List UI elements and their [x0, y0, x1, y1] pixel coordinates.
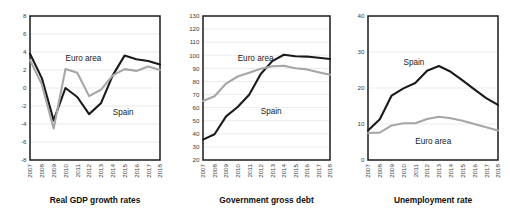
- y-axis-tick-label: 90: [193, 65, 200, 72]
- x-axis-tick-label: 2018: [494, 163, 501, 177]
- y-axis-tick-label: 6: [23, 30, 27, 37]
- y-axis-tick-label: 20: [193, 156, 200, 163]
- y-axis-tick-label: 20: [358, 84, 365, 91]
- y-axis-tick-label: -4: [21, 120, 27, 127]
- y-axis-tick-label: 2: [23, 66, 27, 73]
- y-axis-tick-label: 40: [193, 130, 200, 137]
- y-axis-tick-label: 110: [190, 38, 200, 45]
- y-axis-tick-label: -6: [21, 138, 27, 145]
- x-axis-tick-labels: 2007200820092010201120122013201420152016…: [364, 163, 501, 177]
- x-axis-tick-label: 2018: [156, 163, 163, 177]
- x-axis-tick-label: 2013: [435, 163, 442, 177]
- x-axis-tick-label: 2007: [26, 163, 33, 177]
- x-axis-tick-label: 2008: [211, 163, 218, 177]
- series-line-euro-area: [368, 117, 498, 133]
- y-gridlines: 2030405060708090100110120130: [189, 12, 330, 163]
- x-axis-tick-label: 2017: [315, 163, 322, 177]
- x-axis-tick-label: 2007: [199, 163, 206, 177]
- x-axis-tick-label: 2011: [74, 163, 81, 177]
- y-axis-tick-label: 100: [189, 52, 200, 59]
- x-axis-tick-labels: 2007200820092010201120122013201420152016…: [199, 163, 333, 177]
- x-axis-tick-label: 2014: [109, 163, 116, 177]
- x-axis-tick-label: 2018: [326, 163, 333, 177]
- x-axis-tick-label: 2016: [471, 163, 478, 177]
- y-axis-tick-label: 30: [193, 143, 200, 150]
- chart-svg: 0102030402007200820092010201120122013201…: [340, 0, 510, 212]
- x-axis-tick-label: 2009: [222, 163, 229, 177]
- panel-unemployment-rate: 0102030402007200820092010201120122013201…: [340, 0, 510, 212]
- x-axis-tick-label: 2010: [234, 163, 241, 177]
- panel-title: Government gross debt: [219, 195, 314, 205]
- x-axis-tick-label: 2009: [50, 163, 57, 177]
- panel-government-gross-debt: 2030405060708090100110120130200720082009…: [170, 0, 340, 212]
- panel-real-gdp-growth-rates: -8-6-4-202468200720082009201020112012201…: [0, 0, 170, 212]
- x-axis-tick-label: 2011: [412, 163, 419, 177]
- y-axis-tick-label: 0: [361, 156, 365, 163]
- y-axis-tick-label: 4: [23, 48, 27, 55]
- x-axis-tick-label: 2009: [388, 163, 395, 177]
- x-axis-tick-label: 2014: [447, 163, 454, 177]
- y-axis-tick-label: 80: [193, 78, 200, 85]
- series-line-spain: [368, 66, 498, 130]
- y-axis-tick-label: 70: [193, 91, 200, 98]
- x-axis-tick-label: 2015: [459, 163, 466, 177]
- x-axis-tick-label: 2013: [97, 163, 104, 177]
- x-axis-tick-label: 2013: [269, 163, 276, 177]
- x-axis-tick-label: 2017: [145, 163, 152, 177]
- x-axis-tick-label: 2008: [38, 163, 45, 177]
- x-axis-tick-label: 2012: [85, 163, 92, 177]
- series-annotation-euro-area: Euro area: [415, 137, 451, 146]
- y-axis-tick-label: 50: [193, 117, 200, 124]
- x-axis-tick-labels: 2007200820092010201120122013201420152016…: [26, 163, 163, 177]
- series-annotation-spain: Spain: [113, 108, 134, 117]
- y-axis-tick-label: 40: [358, 12, 365, 19]
- x-axis-tick-label: 2016: [303, 163, 310, 177]
- x-axis-tick-label: 2014: [280, 163, 287, 177]
- y-axis-tick-label: 130: [189, 12, 200, 19]
- figure-three-panel-chart: -8-6-4-202468200720082009201020112012201…: [0, 0, 510, 212]
- y-axis-tick-label: -8: [21, 156, 27, 163]
- series-annotation-spain: Spain: [403, 58, 424, 67]
- x-axis-tick-label: 2017: [483, 163, 490, 177]
- series-line-euro-area: [30, 60, 160, 128]
- x-axis-tick-label: 2008: [376, 163, 383, 177]
- series-annotation-euro-area: Euro area: [65, 54, 101, 63]
- x-axis-tick-label: 2015: [292, 163, 299, 177]
- panel-title: Real GDP growth rates: [50, 195, 141, 205]
- y-axis-tick-label: -2: [21, 102, 27, 109]
- y-axis-tick-label: 30: [358, 48, 365, 55]
- chart-svg: -8-6-4-202468200720082009201020112012201…: [0, 0, 170, 212]
- x-axis-tick-label: 2012: [257, 163, 264, 177]
- y-axis-tick-label: 0: [23, 84, 27, 91]
- x-axis-tick-label: 2011: [246, 163, 253, 177]
- series-annotation-euro-area: Euro area: [238, 54, 274, 63]
- y-axis-tick-label: 60: [193, 104, 200, 111]
- y-axis-tick-label: 120: [189, 25, 200, 32]
- panel-title: Unemployment rate: [394, 195, 473, 205]
- x-axis-tick-label: 2016: [133, 163, 140, 177]
- series-line-euro-area: [203, 66, 330, 101]
- x-axis-tick-label: 2010: [62, 163, 69, 177]
- y-axis-tick-label: 10: [358, 120, 365, 127]
- series-annotation-spain: Spain: [261, 107, 282, 116]
- x-axis-tick-label: 2007: [364, 163, 371, 177]
- x-axis-tick-label: 2012: [423, 163, 430, 177]
- x-axis-tick-label: 2010: [400, 163, 407, 177]
- chart-svg: 2030405060708090100110120130200720082009…: [170, 0, 340, 212]
- x-axis-tick-label: 2015: [121, 163, 128, 177]
- y-axis-tick-label: 8: [23, 12, 27, 19]
